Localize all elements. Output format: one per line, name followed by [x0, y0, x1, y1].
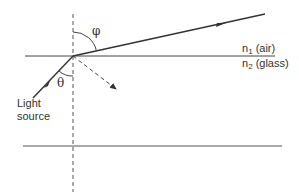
reflected-ray: [73, 56, 116, 89]
phi-label: φ: [92, 24, 100, 38]
incident-ray-arrow-icon: [44, 78, 51, 88]
medium-bottom-label: n2 (glass): [242, 57, 289, 71]
light-source-label-line2: source: [17, 110, 50, 122]
refracted-ray-arrow-icon: [216, 23, 226, 27]
refracted-ray: [73, 14, 265, 56]
theta-label: θ: [57, 76, 64, 90]
medium-top-label: n1 (air): [242, 42, 275, 56]
incident-ray: [33, 56, 73, 98]
refraction-diagram: φ θ n1 (air) n2 (glass) Light source: [0, 0, 299, 196]
light-source-label-line1: Light: [17, 97, 41, 109]
